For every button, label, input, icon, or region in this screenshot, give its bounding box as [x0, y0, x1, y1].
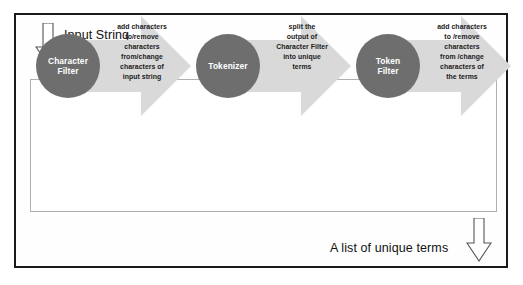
output-arrow-icon: [466, 218, 492, 262]
stage-circle-label: CharacterFilter: [48, 56, 88, 77]
stage-description-token-filter: add charactersto /removecharactersfrom /…: [414, 22, 510, 82]
stage-circle-label: Tokenizer: [208, 61, 247, 71]
stage-circle-token-filter: TokenFilter: [356, 34, 420, 98]
stage-circle-tokenizer: Tokenizer: [196, 34, 260, 98]
stage-circle-label: TokenFilter: [376, 56, 401, 77]
stage-description-tokenizer: split theoutput ofCharacter Filterinto u…: [254, 22, 350, 72]
diagram-canvas: Input String Analyzer CharacterFilter ad…: [0, 0, 523, 285]
stage-circle-character-filter: CharacterFilter: [36, 34, 100, 98]
stage-description-character-filter: add charactersto/removecharactersfrom/ch…: [94, 22, 190, 82]
output-terms-label: A list of unique terms: [330, 241, 448, 255]
